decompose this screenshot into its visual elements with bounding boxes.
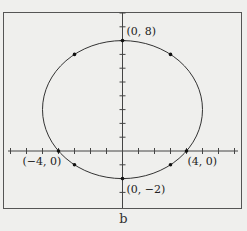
figure-caption: b [0, 211, 247, 226]
point-dot [73, 53, 77, 57]
point-dot [57, 149, 61, 153]
point-dot [185, 149, 189, 153]
point-dot [73, 163, 77, 167]
point-label: (−4, 0) [23, 155, 62, 168]
point-dot [121, 177, 125, 181]
point-label: (0, 8) [127, 25, 157, 38]
point-dot [169, 53, 173, 57]
point-label: (4, 0) [188, 155, 218, 168]
point-dot [121, 39, 125, 43]
graph: (0, 8)(0, −2)(−4, 0)(4, 0) [0, 0, 247, 212]
point-label: (0, −2) [127, 183, 166, 196]
point-dot [169, 163, 173, 167]
